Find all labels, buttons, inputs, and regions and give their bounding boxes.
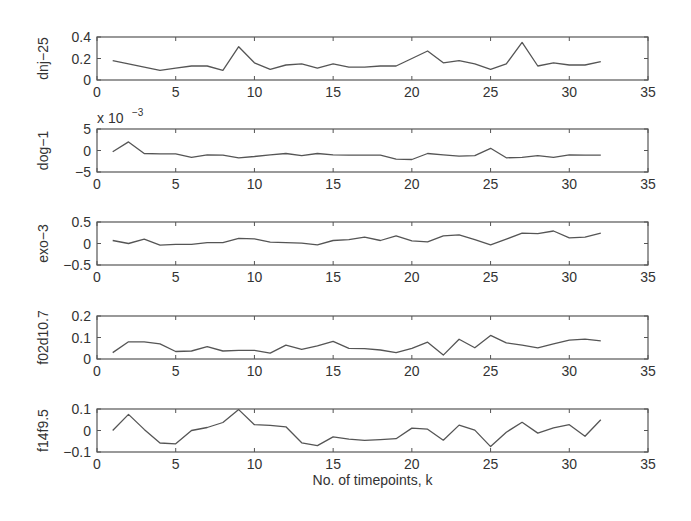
x-tick-label: 5 [172,269,180,285]
x-tick-label: 15 [325,84,341,100]
y-tick-label: 0.4 [72,29,92,45]
axes-box [97,129,648,172]
x-tick-label: 35 [640,84,656,100]
x-tick-label: 5 [172,363,180,379]
y-tick-label: 0.1 [72,401,92,417]
y-tick-label: 5 [83,121,91,137]
x-tick-label: 25 [483,456,499,472]
x-tick-label: 30 [561,363,577,379]
x-tick-label: 10 [247,176,263,192]
subplot-3: 05101520253035−0.500.5exo−3 [35,214,656,285]
figure: 0510152025303500.20.4dnj−250510152025303… [0,0,691,521]
data-line [113,42,601,70]
x-tick-label: 5 [172,176,180,192]
y-tick-label: 0.1 [72,330,92,346]
y-tick-label: 0 [83,423,91,439]
x-tick-label: 20 [404,269,420,285]
subplot-1: 0510152025303500.20.4dnj−25 [35,29,656,100]
x-tick-label: 30 [561,176,577,192]
x-tick-label: 0 [93,269,101,285]
x-tick-label: 15 [325,456,341,472]
x-tick-label: 25 [483,269,499,285]
x-tick-label: 25 [483,84,499,100]
x-tick-label: 35 [640,456,656,472]
x-tick-label: 30 [561,269,577,285]
x-tick-label: 5 [172,84,180,100]
x-tick-label: 10 [247,456,263,472]
y-tick-label: −0.1 [63,444,91,460]
axes-box [97,37,648,80]
y-tick-label: 0.2 [72,308,92,324]
y-tick-label: 0 [83,351,91,367]
x-tick-label: 30 [561,84,577,100]
x-tick-label: 10 [247,363,263,379]
data-line [113,335,601,355]
y-tick-label: 0 [83,236,91,252]
x-tick-label: 25 [483,363,499,379]
subplot-4: 0510152025303500.10.2f02d10.7 [35,308,656,379]
y-axis-label: dog−1 [35,131,51,171]
y-axis-label: exo−3 [35,224,51,263]
x-tick-label: 5 [172,456,180,472]
y-tick-label: 0.5 [72,214,92,230]
x-tick-label: 20 [404,84,420,100]
exponent-power: −3 [132,107,144,118]
axes-box [97,409,648,452]
x-tick-label: 10 [247,84,263,100]
data-line [113,231,601,245]
x-tick-label: 35 [640,363,656,379]
x-axis-label: No. of timepoints, k [313,472,434,488]
x-tick-label: 15 [325,269,341,285]
y-tick-label: 0.2 [72,51,92,67]
y-tick-label: 0 [83,143,91,159]
x-tick-label: 30 [561,456,577,472]
y-tick-label: 0 [83,72,91,88]
exponent-label: x 10 [97,110,124,126]
y-axis-label: dnj−25 [35,37,51,80]
x-tick-label: 35 [640,176,656,192]
x-tick-label: 35 [640,269,656,285]
x-tick-label: 20 [404,176,420,192]
x-tick-label: 0 [93,176,101,192]
data-line [113,410,601,447]
y-axis-label: f02d10.7 [35,310,51,365]
y-axis-label: f14f9.5 [35,409,51,452]
x-tick-label: 0 [93,456,101,472]
y-tick-label: −0.5 [63,257,91,273]
data-line [113,142,601,160]
x-tick-label: 15 [325,363,341,379]
x-tick-label: 0 [93,84,101,100]
x-tick-label: 25 [483,176,499,192]
x-tick-label: 20 [404,456,420,472]
axes-box [97,222,648,265]
subplot-5: 05101520253035−0.100.1f14f9.5No. of time… [35,401,656,488]
subplot-2: 05101520253035−505dog−1x 10−3 [35,107,656,192]
x-tick-label: 20 [404,363,420,379]
x-tick-label: 0 [93,363,101,379]
y-tick-label: −5 [75,164,91,180]
x-tick-label: 15 [325,176,341,192]
axes-box [97,316,648,359]
x-tick-label: 10 [247,269,263,285]
